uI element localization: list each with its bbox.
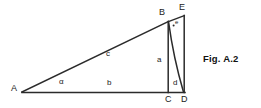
side-label-c: c (106, 50, 110, 58)
side-label-a: a (157, 56, 161, 64)
side-label-b: b (107, 79, 111, 87)
figure-caption: Fig. A.2 (203, 53, 239, 64)
vertex-label-B: B (159, 8, 165, 17)
angle-label-alpha: α (59, 78, 64, 86)
figure-container: A B C D E α e c b a d Fig. A.2 (0, 0, 261, 108)
side-label-d: d (173, 79, 177, 87)
vertex-label-A: A (11, 84, 17, 93)
angle-label-e: e (175, 19, 178, 25)
segment-hypotenuse-AB (22, 22, 169, 93)
vertex-label-D: D (181, 95, 188, 104)
vertex-label-C: C (165, 95, 172, 104)
vertex-label-E: E (179, 3, 185, 12)
